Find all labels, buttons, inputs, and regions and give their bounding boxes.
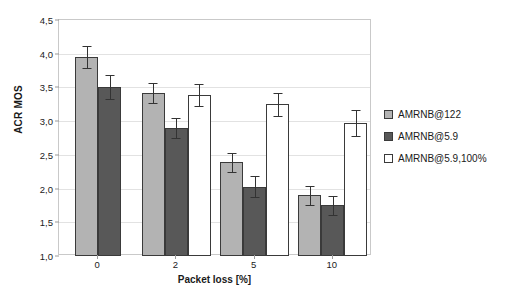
legend-item[interactable]: AMRNB@122 (384, 103, 487, 125)
error-bar-cap (195, 84, 204, 85)
y-tick-label: 2,0 (40, 183, 53, 194)
bar (98, 87, 121, 256)
y-tick-label: 4,0 (40, 48, 53, 59)
y-tick-label: 1,0 (40, 251, 53, 262)
y-axis-title: ACR MOS (13, 70, 24, 150)
legend-swatch-icon (384, 132, 393, 141)
error-bar-cap (172, 138, 181, 139)
y-tick-label: 4,5 (40, 15, 53, 26)
y-tick-label: 1,5 (40, 217, 53, 228)
plot-area: 1,01,52,02,53,03,54,04,5 (58, 19, 371, 255)
y-tick-label: 2,5 (40, 149, 53, 160)
error-bar (232, 153, 233, 172)
y-tick-mark (55, 256, 59, 257)
error-bar-cap (305, 186, 314, 187)
y-tick-mark (55, 87, 59, 88)
gridline (59, 54, 370, 55)
error-bar (199, 84, 200, 106)
x-tick-label: 5 (251, 259, 256, 270)
bar (75, 57, 98, 256)
error-bar-cap (227, 172, 236, 173)
x-tick-label: 10 (327, 259, 338, 270)
bar (220, 162, 243, 256)
error-bar-cap (195, 106, 204, 107)
error-bar-cap (351, 136, 360, 137)
bar (344, 123, 367, 256)
legend-label: AMRNB@122 (398, 109, 461, 120)
x-tick-label: 0 (94, 259, 99, 270)
legend-label: AMRNB@5.9,100% (398, 153, 487, 164)
error-bar-cap (82, 46, 91, 47)
error-bar-cap (273, 116, 282, 117)
error-bar (333, 196, 334, 215)
error-bar-cap (105, 99, 114, 100)
y-tick-mark (55, 154, 59, 155)
legend-item[interactable]: AMRNB@5.9 (384, 125, 487, 147)
error-bar (176, 118, 177, 138)
y-tick-mark (55, 121, 59, 122)
error-bar-cap (149, 103, 158, 104)
y-tick-label: 3,0 (40, 116, 53, 127)
error-bar-cap (149, 83, 158, 84)
error-bar (310, 186, 311, 205)
error-bar-cap (82, 68, 91, 69)
bar (188, 95, 211, 256)
x-axis-title: Packet loss [%] (58, 274, 371, 285)
error-bar-cap (172, 118, 181, 119)
error-bar-cap (227, 153, 236, 154)
error-bar-cap (305, 205, 314, 206)
error-bar (278, 93, 279, 116)
bar (142, 93, 165, 256)
legend-swatch-icon (384, 110, 393, 119)
error-bar-cap (328, 215, 337, 216)
error-bar-cap (105, 75, 114, 76)
error-bar (356, 110, 357, 136)
y-tick-mark (55, 53, 59, 54)
error-bar-cap (250, 176, 259, 177)
bar (165, 128, 188, 256)
legend-swatch-icon (384, 154, 393, 163)
error-bar (153, 83, 154, 103)
error-bar (255, 176, 256, 198)
legend-label: AMRNB@5.9 (398, 131, 458, 142)
y-tick-mark (55, 222, 59, 223)
error-bar-cap (328, 196, 337, 197)
error-bar-cap (250, 197, 259, 198)
chart-legend: AMRNB@122AMRNB@5.9AMRNB@5.9,100% (384, 103, 487, 169)
y-tick-mark (55, 20, 59, 21)
bar (266, 104, 289, 256)
legend-item[interactable]: AMRNB@5.9,100% (384, 147, 487, 169)
x-tick-mark (175, 255, 176, 259)
error-bar (110, 75, 111, 99)
x-tick-mark (97, 255, 98, 259)
error-bar (87, 46, 88, 68)
y-tick-label: 3,5 (40, 82, 53, 93)
error-bar-cap (273, 93, 282, 94)
x-tick-label: 2 (173, 259, 178, 270)
bar-chart: ACR MOS 1,01,52,02,53,03,54,04,5 02510 P… (0, 0, 516, 302)
y-tick-mark (55, 188, 59, 189)
error-bar-cap (351, 110, 360, 111)
x-tick-mark (254, 255, 255, 259)
x-tick-mark (332, 255, 333, 259)
